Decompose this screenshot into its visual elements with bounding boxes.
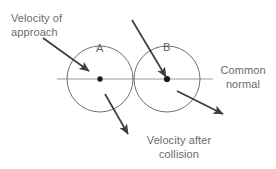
body-b-label: B [163, 41, 170, 53]
velocity-of-approach-arrow-b [132, 20, 166, 77]
velocity-of-approach-arrow-a [43, 38, 89, 71]
velocity-after-collision-arrow-b [177, 91, 223, 114]
body-a-center-dot [97, 76, 102, 81]
body-a-label: A [96, 42, 103, 54]
velocity-after-collision-arrow-a [105, 94, 128, 134]
common-normal-label: Common normal [212, 64, 274, 91]
velocity-of-approach-label: Velocity of approach [11, 12, 62, 39]
velocity-after-collision-label: Velocity after collision [134, 134, 224, 161]
body-b-center-dot [164, 76, 170, 82]
diagram-canvas: Velocity of approach Common normal Veloc… [0, 0, 276, 169]
